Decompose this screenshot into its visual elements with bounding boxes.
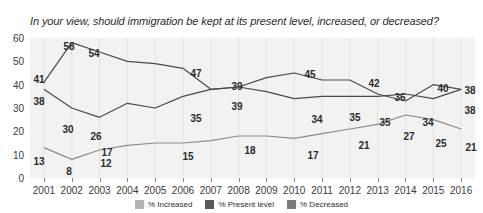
data-point-label: 36 bbox=[394, 92, 405, 103]
x-axis-tickmark bbox=[461, 178, 462, 182]
x-axis-label: 2016 bbox=[450, 185, 472, 196]
data-point-label: 13 bbox=[33, 156, 44, 167]
x-axis-tickmark bbox=[239, 178, 240, 182]
data-point-label: 41 bbox=[33, 74, 44, 85]
data-point-label: 54 bbox=[88, 48, 99, 59]
x-axis-label: 2006 bbox=[172, 185, 194, 196]
data-point-label: 35 bbox=[349, 112, 360, 123]
x-axis-label: 2004 bbox=[116, 185, 138, 196]
data-point-label: 38 bbox=[464, 85, 475, 96]
data-point-label: 58 bbox=[63, 41, 74, 52]
legend-label: % Increased bbox=[148, 200, 192, 209]
x-axis-tickmark bbox=[44, 178, 45, 182]
data-point-label: 17 bbox=[307, 150, 318, 161]
x-axis-label: 2009 bbox=[255, 185, 277, 196]
legend-label: % Decreased bbox=[300, 200, 348, 209]
y-axis: 0102030405060 bbox=[0, 38, 28, 178]
data-point-label: 42 bbox=[368, 78, 379, 89]
legend-swatch-icon bbox=[287, 200, 296, 209]
x-axis-label: 2001 bbox=[33, 185, 55, 196]
x-axis-label: 2003 bbox=[88, 185, 110, 196]
x-axis-tickmark bbox=[183, 178, 184, 182]
x-axis-label: 2010 bbox=[283, 185, 305, 196]
x-axis-tickmark bbox=[100, 178, 101, 182]
chart-title: In your view, should immigration be kept… bbox=[30, 15, 439, 27]
x-axis-tickmark bbox=[378, 178, 379, 182]
x-axis-tickmark bbox=[322, 178, 323, 182]
data-point-label: 21 bbox=[358, 140, 369, 151]
data-point-label: 39 bbox=[231, 81, 242, 92]
legend-swatch-icon bbox=[205, 200, 214, 209]
x-axis-tickmark bbox=[350, 178, 351, 182]
data-point-label: 45 bbox=[304, 69, 315, 80]
data-point-label: 38 bbox=[33, 96, 44, 107]
data-point-label: 35 bbox=[379, 117, 390, 128]
legend-label: % Present level bbox=[218, 200, 274, 209]
x-axis-tickmark bbox=[155, 178, 156, 182]
x-axis-tickmark bbox=[72, 178, 73, 182]
plot-area bbox=[30, 38, 475, 178]
x-axis-tickmark bbox=[266, 178, 267, 182]
y-axis-tick: 50 bbox=[13, 56, 24, 67]
x-axis-label: 2011 bbox=[311, 185, 333, 196]
data-point-label: 34 bbox=[422, 117, 433, 128]
x-axis-tickmark bbox=[433, 178, 434, 182]
plot-lines bbox=[30, 38, 475, 178]
data-point-label: 18 bbox=[244, 145, 255, 156]
data-point-label: 38 bbox=[464, 105, 475, 116]
y-axis-tick: 10 bbox=[13, 149, 24, 160]
legend-item[interactable]: % Present level bbox=[205, 200, 274, 209]
y-axis-tick: 20 bbox=[13, 126, 24, 137]
x-axis-label: 2002 bbox=[61, 185, 83, 196]
x-axis-label: 2014 bbox=[394, 185, 416, 196]
x-axis-label: 2005 bbox=[144, 185, 166, 196]
data-point-label: 21 bbox=[465, 142, 476, 153]
immigration-opinion-chart: In your view, should immigration be kept… bbox=[0, 0, 483, 213]
data-point-label: 25 bbox=[435, 138, 446, 149]
data-point-label: 26 bbox=[90, 131, 101, 142]
data-point-label: 35 bbox=[190, 113, 201, 124]
x-axis-label: 2012 bbox=[339, 185, 361, 196]
y-axis-tick: 30 bbox=[13, 103, 24, 114]
legend-swatch-icon bbox=[135, 200, 144, 209]
data-point-label: 15 bbox=[182, 151, 193, 162]
y-axis-tick: 0 bbox=[18, 173, 24, 184]
x-axis-tickmark bbox=[211, 178, 212, 182]
chart-legend: % Increased% Present level% Decreased bbox=[0, 197, 483, 211]
data-point-label: 8 bbox=[66, 166, 72, 177]
data-point-label: 12 bbox=[100, 158, 111, 169]
x-axis-label: 2007 bbox=[200, 185, 222, 196]
x-axis-label: 2008 bbox=[227, 185, 249, 196]
legend-item[interactable]: % Decreased bbox=[287, 200, 348, 209]
legend-item[interactable]: % Increased bbox=[135, 200, 192, 209]
y-axis-tick: 60 bbox=[13, 33, 24, 44]
data-point-label: 39 bbox=[231, 101, 242, 112]
data-point-label: 34 bbox=[311, 114, 322, 125]
x-axis-label: 2013 bbox=[367, 185, 389, 196]
data-point-label: 17 bbox=[101, 147, 112, 158]
series-line bbox=[44, 43, 461, 99]
data-point-label: 40 bbox=[437, 83, 448, 94]
data-point-label: 47 bbox=[190, 68, 201, 79]
data-point-label: 27 bbox=[403, 131, 414, 142]
y-axis-tick: 40 bbox=[13, 79, 24, 90]
x-axis-tickmark bbox=[294, 178, 295, 182]
x-axis-label: 2015 bbox=[422, 185, 444, 196]
data-point-label: 30 bbox=[62, 124, 73, 135]
x-axis-tickmark bbox=[405, 178, 406, 182]
x-axis-tickmark bbox=[127, 178, 128, 182]
